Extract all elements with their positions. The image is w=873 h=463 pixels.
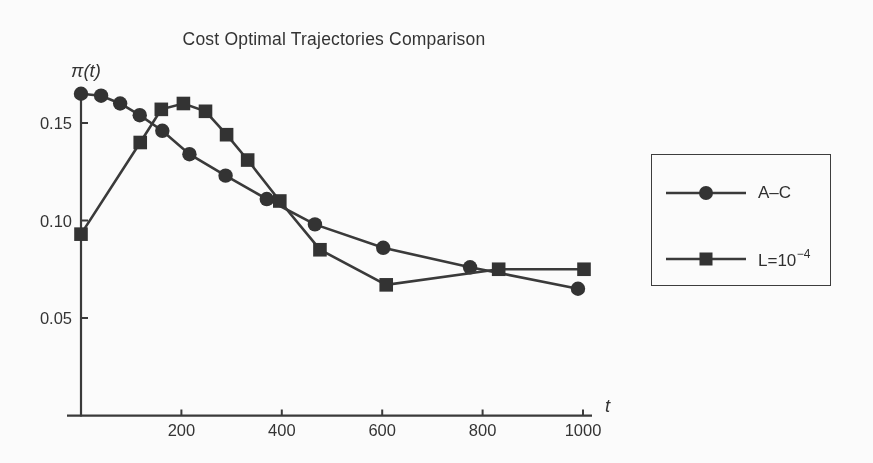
data-point-circle [155,124,169,138]
data-point-square [379,278,393,292]
y-tick-label: 0.05 [40,309,72,327]
legend-key-line [665,182,747,204]
legend-item-label: A–C [758,183,791,203]
data-point-circle [113,96,127,110]
legend-key-line [665,248,747,270]
data-point-square [220,128,234,142]
data-point-circle [571,282,585,296]
y-tick-label: 0.10 [40,212,72,230]
data-point-circle [376,241,390,255]
legend-square-marker-icon [700,253,713,266]
x-tick-label: 200 [168,421,196,439]
data-point-square [74,227,88,241]
legend-item-label: L=10−4 [758,248,810,271]
data-point-square [199,105,213,119]
data-point-square [313,243,327,257]
data-point-circle [74,87,88,101]
data-point-square [155,103,169,117]
x-tick-label: 400 [268,421,296,439]
y-tick-label: 0.15 [40,114,72,132]
legend-circle-marker-icon [699,186,713,200]
data-point-circle [218,168,232,182]
data-point-square [577,262,591,276]
x-tick-label: 600 [368,421,396,439]
data-point-circle [308,217,322,231]
data-point-square [133,136,147,150]
x-tick-label: 1000 [565,421,602,439]
y-axis-title: π(t) [71,60,101,81]
series-line-0 [81,94,578,289]
data-point-circle [182,147,196,161]
data-point-square [177,97,191,111]
data-point-square [273,194,287,208]
data-point-circle [260,192,274,206]
legend-item-1: L=10−4 [665,247,810,271]
data-point-circle [94,89,108,103]
legend-box: A–CL=10−4 [651,154,831,286]
data-point-circle [133,108,147,122]
x-tick-label: 800 [469,421,497,439]
legend-item-0: A–C [665,181,791,205]
x-axis-title: t [605,395,611,416]
figure-canvas: Cost Optimal Trajectories Comparison 0.0… [0,0,873,463]
data-point-square [492,262,506,276]
data-point-square [241,153,255,167]
